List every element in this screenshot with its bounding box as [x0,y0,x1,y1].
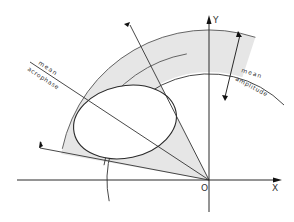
arrowhead-icon [222,95,228,101]
x-axis-arrowhead-icon [273,178,282,183]
origin-label: O [201,183,208,193]
diagram-canvas: X Y O mean acrophase mean amplitude [0,0,294,222]
y-axis-label: Y [212,15,219,25]
y-axis-arrowhead-icon [207,15,212,24]
cosinor-diagram: X Y O mean acrophase mean amplitude [0,0,294,222]
x-axis-label: X [272,183,278,193]
mean-amplitude-label-line2: amplitude [234,75,269,99]
arrowhead-icon [124,22,130,27]
